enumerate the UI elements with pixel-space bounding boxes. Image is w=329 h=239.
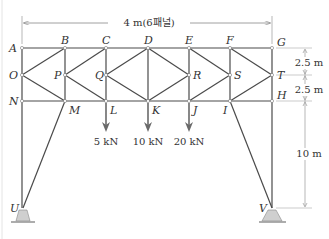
node-label-i: I <box>222 104 228 117</box>
node-label-u: U <box>10 202 20 215</box>
load-label-j: 20 kN <box>174 136 205 147</box>
node-label-r: R <box>192 69 201 82</box>
node-label-a: A <box>8 42 17 55</box>
span-dimension-label: 4 m(6패널) <box>123 17 174 28</box>
node-label-t: T <box>277 69 286 82</box>
load-label-k: 10 kN <box>133 136 164 147</box>
load-arrows <box>106 103 189 126</box>
upper-height-label: 2.5 m <box>295 57 324 68</box>
node-label-s: S <box>234 69 242 82</box>
node-label-v: V <box>259 202 268 215</box>
node-label-h: H <box>276 89 287 102</box>
truss-diagram: 4 m(6패널) 2.5 m 2.5 m 10 m <box>0 0 329 239</box>
node-label-c: C <box>102 34 111 47</box>
node-label-f: F <box>225 34 234 47</box>
node-label-e: E <box>184 34 193 47</box>
node-label-m: M <box>68 104 81 117</box>
node-label-j: J <box>191 104 198 117</box>
node-label-g: G <box>277 36 286 49</box>
node-label-o: O <box>9 69 18 82</box>
node-label-d: D <box>143 34 153 47</box>
node-label-k: K <box>151 104 161 117</box>
node-label-n: N <box>8 95 19 108</box>
lower-height-label: 2.5 m <box>295 84 324 95</box>
node-label-p: P <box>53 69 62 82</box>
load-label-l: 5 kN <box>94 136 119 147</box>
node-label-l: L <box>109 104 117 117</box>
node-label-q: Q <box>95 69 104 82</box>
node-label-b: B <box>60 34 69 47</box>
leg-height-label: 10 m <box>296 148 322 159</box>
